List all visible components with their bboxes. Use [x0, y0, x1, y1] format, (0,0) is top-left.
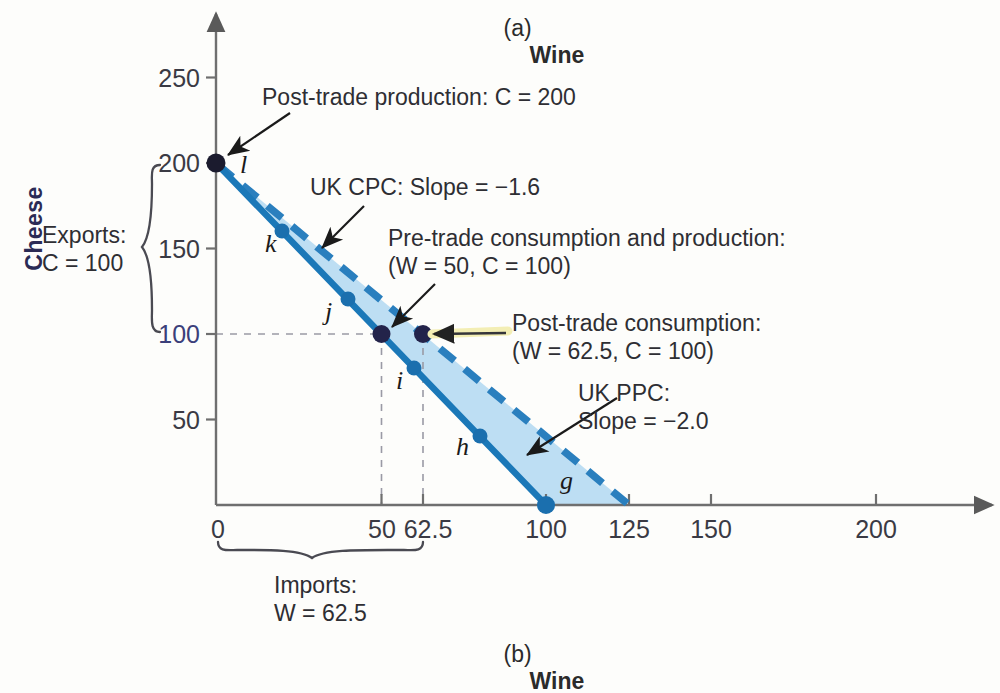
panel-caption-top: (a) Wine: [478, 0, 584, 97]
x-tick-150: 150: [687, 515, 735, 545]
annot-imports-line2: W = 62.5: [274, 600, 367, 627]
y-tick-200: 200: [158, 149, 200, 179]
annot-post-trade-consumption-line2: (W = 62.5, C = 100): [512, 338, 714, 365]
annot-uk-cpc: UK CPC: Slope = −1.6: [310, 174, 540, 201]
leader-pre-trade: [392, 284, 435, 327]
panel-caption-bottom-word: Wine: [530, 668, 585, 693]
point-label-i: i: [396, 366, 403, 397]
x-tick-125: 125: [605, 515, 653, 545]
marker-g: [537, 496, 555, 514]
y-tick-150: 150: [158, 235, 200, 265]
annot-post-trade-production: Post-trade production: C = 200: [262, 84, 576, 111]
panel-caption-bottom-letter: (b): [504, 641, 532, 667]
point-label-h: h: [456, 432, 469, 463]
marker-h: [473, 429, 488, 444]
annot-post-trade-consumption-line1: Post-trade consumption:: [512, 310, 761, 337]
point-label-j: j: [325, 297, 332, 328]
y-tick-250: 250: [158, 64, 200, 94]
annot-uk-ppc-line2: Slope = −2.0: [578, 408, 708, 435]
annot-pre-trade-line1: Pre-trade consumption and production:: [388, 225, 786, 252]
y-tick-50: 50: [158, 406, 200, 436]
y-tick-100: 100: [158, 320, 200, 350]
annot-pre-trade-line2: (W = 50, C = 100): [388, 253, 571, 280]
x-tick-200: 200: [852, 515, 900, 545]
leader-post-trade-consumption: [434, 333, 506, 334]
annot-uk-ppc-line1: UK PPC:: [578, 380, 670, 407]
leader-uk-cpc: [322, 206, 364, 248]
x-axis-ticks: [382, 494, 877, 505]
marker-i: [407, 361, 422, 376]
x-tick-0: 0: [206, 515, 230, 545]
point-label-g: g: [560, 466, 573, 497]
point-label-k: k: [265, 229, 277, 260]
marker-j: [341, 292, 356, 307]
panel-caption-bottom: (b) Wine: [478, 614, 584, 693]
panel-caption-top-word: Wine: [530, 42, 585, 68]
marker-pre-trade-point: [373, 325, 391, 343]
annot-exports-line1: Exports:: [42, 222, 126, 249]
annot-imports-line1: Imports:: [274, 572, 357, 599]
leader-post-trade-production: [228, 113, 290, 155]
panel-caption-top-letter: (a): [504, 15, 532, 41]
x-tick-50: 50: [364, 515, 400, 545]
x-tick-62-5: 62.5: [400, 515, 456, 545]
y-axis-ticks: [206, 78, 216, 420]
point-label-l: l: [240, 150, 247, 181]
annot-exports-line2: C = 100: [42, 250, 123, 277]
marker-post-trade-production: [207, 154, 226, 173]
x-tick-100: 100: [522, 515, 570, 545]
